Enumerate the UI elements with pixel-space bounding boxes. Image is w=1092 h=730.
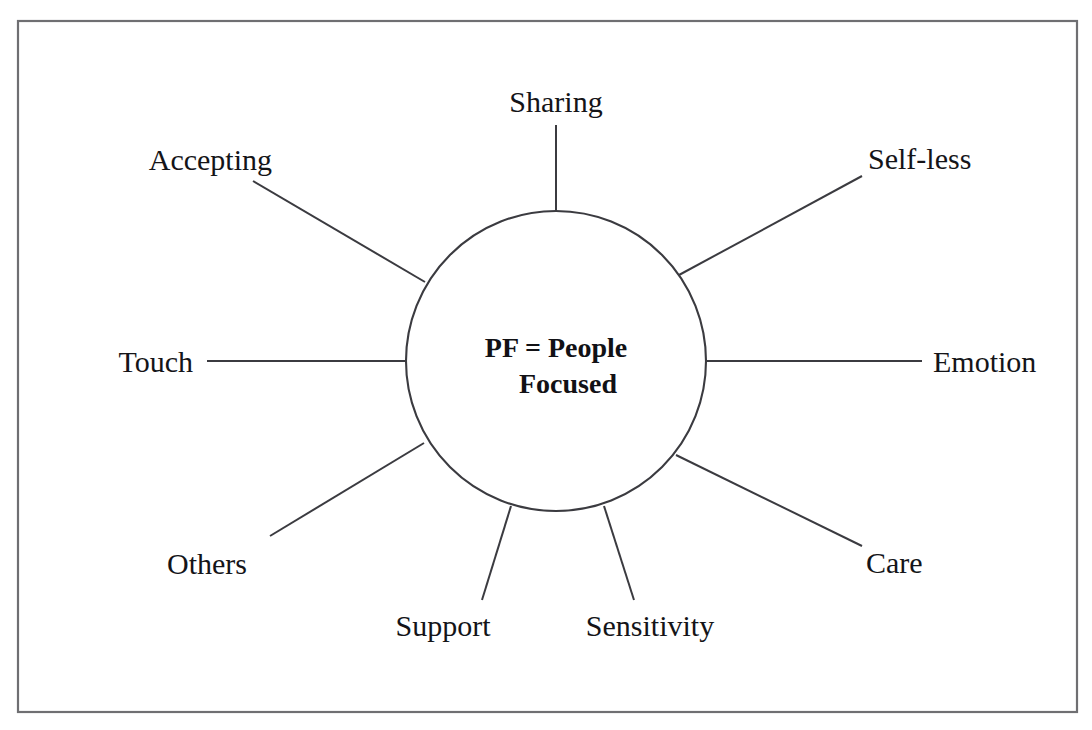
node-label-support: Support <box>395 609 491 642</box>
spoke-line-support <box>482 506 511 600</box>
node-label-others: Others <box>167 547 247 580</box>
center-label-line2: Focused <box>519 368 617 399</box>
node-label-accepting: Accepting <box>149 143 272 176</box>
radial-diagram-canvas: PF = People Focused SharingSelf-lessEmot… <box>0 0 1092 730</box>
spoke-line-self-less <box>679 176 862 275</box>
spoke-line-others <box>270 443 424 536</box>
spoke-line-care <box>676 455 862 546</box>
node-label-care: Care <box>866 546 923 579</box>
node-label-emotion: Emotion <box>933 345 1036 378</box>
node-label-self-less: Self-less <box>868 142 971 175</box>
node-label-touch: Touch <box>118 345 193 378</box>
center-label-line1: PF = People <box>485 332 627 363</box>
spoke-line-accepting <box>253 181 425 282</box>
diagram-container: PF = People Focused SharingSelf-lessEmot… <box>0 0 1092 730</box>
spoke-line-sensitivity <box>604 506 634 600</box>
node-label-sensitivity: Sensitivity <box>586 609 714 642</box>
node-label-sharing: Sharing <box>509 85 602 118</box>
